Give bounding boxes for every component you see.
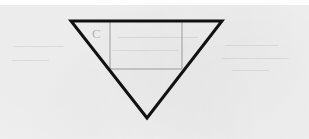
figure-canvas: —————— ————— ———— ————— ——— ———— ——— C — [0, 0, 309, 139]
inscribed-rectangle — [110, 21, 182, 69]
geometry-figure: C — [0, 0, 309, 139]
vertex-label-c: C — [92, 26, 101, 41]
